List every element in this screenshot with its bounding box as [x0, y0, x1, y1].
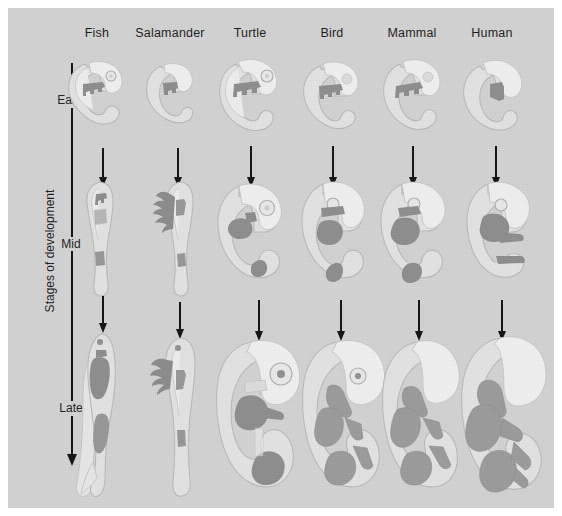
embryo-comparison-figure: Fish Salamander Turtle Bird Mammal Human…: [0, 0, 562, 516]
column-header-human: Human: [471, 26, 512, 40]
figure-panel: Fish Salamander Turtle Bird Mammal Human…: [8, 8, 554, 508]
embryo-bird-mid: [293, 178, 373, 290]
stage-arrow-salamander-2: [175, 302, 185, 330]
embryo-mammal-late: [375, 336, 463, 494]
axis-title: Stages of development: [43, 161, 57, 341]
column-header-salamander: Salamander: [135, 26, 204, 40]
embryo-salamander-early: [137, 54, 203, 140]
embryo-fish-mid: [80, 180, 126, 298]
embryo-fish-late: [73, 330, 133, 502]
stage-arrow-bird-2: [336, 300, 346, 332]
embryo-human-mid: [454, 178, 538, 290]
embryo-mammal-mid: [372, 178, 454, 290]
stage-arrow-turtle-1: [246, 146, 256, 178]
stage-arrow-human-2: [497, 300, 507, 332]
stage-arrow-bird-1: [328, 146, 338, 178]
embryo-bird-late: [295, 336, 387, 494]
stage-arrow-human-1: [491, 146, 501, 178]
stage-arrow-fish-2: [98, 296, 108, 324]
column-header-turtle: Turtle: [234, 26, 267, 40]
column-header-fish: Fish: [85, 26, 109, 40]
embryo-salamander-mid: [150, 180, 206, 298]
column-header-bird: Bird: [320, 26, 343, 40]
stage-arrow-salamander-1: [173, 148, 183, 178]
column-header-mammal: Mammal: [387, 26, 436, 40]
embryo-human-early: [454, 50, 530, 142]
embryo-fish-early: [61, 54, 133, 140]
stage-arrow-mammal-1: [408, 146, 418, 178]
embryo-bird-early: [295, 52, 369, 142]
embryo-human-late: [456, 334, 548, 496]
embryo-turtle-late: [211, 336, 307, 496]
embryo-salamander-late: [147, 334, 213, 500]
stage-arrow-turtle-2: [254, 300, 264, 332]
embryo-turtle-early: [210, 48, 290, 142]
embryo-turtle-mid: [209, 180, 293, 288]
stage-arrow-mammal-2: [414, 300, 424, 332]
embryo-mammal-early: [374, 50, 450, 142]
stage-arrow-fish-1: [98, 148, 108, 178]
